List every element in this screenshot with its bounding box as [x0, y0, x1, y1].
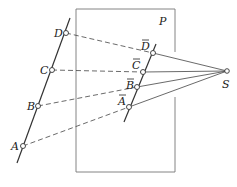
- point-d-bar: [151, 51, 156, 56]
- label-c: C: [40, 64, 49, 77]
- label-a-bar: A: [117, 95, 126, 108]
- plane-label: P: [158, 15, 167, 28]
- label-a: A: [10, 140, 19, 153]
- point-b: [36, 104, 41, 109]
- label-b: B: [26, 100, 35, 113]
- label-c-bar: C: [132, 59, 141, 72]
- point-d: [64, 31, 69, 36]
- center-s: [225, 69, 230, 74]
- label-d: D: [53, 27, 63, 40]
- point-a-bar: [127, 105, 132, 110]
- label-b-bar: B: [125, 79, 134, 92]
- point-c-bar: [141, 70, 146, 75]
- center-label: S: [222, 78, 230, 91]
- point-c: [50, 68, 55, 73]
- projection-rays: [23, 33, 227, 146]
- point-a: [21, 144, 26, 149]
- label-d-bar: D: [140, 40, 150, 53]
- point-b-bar: [135, 85, 140, 90]
- central-projection-diagram: P A B C D A B C D S: [0, 0, 237, 187]
